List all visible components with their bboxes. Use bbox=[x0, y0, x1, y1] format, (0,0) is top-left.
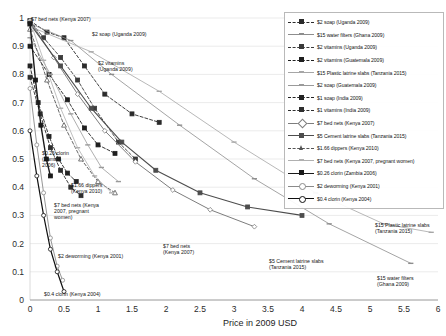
legend-marker bbox=[299, 159, 304, 161]
data-point-marker bbox=[59, 55, 63, 59]
legend-marker bbox=[299, 107, 304, 112]
data-point-marker bbox=[55, 270, 59, 274]
legend-item[interactable]: $2 vitamins (Guatemala 2009) bbox=[287, 54, 441, 67]
y-axis-tick-label: 0.1 bbox=[2, 267, 24, 277]
x-axis-tick-label: 1 bbox=[84, 304, 112, 314]
x-axis-tick-label: 5 bbox=[356, 304, 384, 314]
legend-item[interactable]: $0.4 clorin (Kenya 2004) bbox=[287, 192, 441, 205]
legend-key-icon bbox=[288, 67, 314, 78]
legend-marker bbox=[299, 44, 304, 49]
chart-annotation: $7 bed nets (Kenya 2007) bbox=[163, 243, 194, 255]
legend-item[interactable]: $2 deworming (Kenya 2001) bbox=[287, 180, 441, 193]
x-axis-tick-label: 3.5 bbox=[254, 304, 282, 314]
data-point-marker bbox=[48, 174, 52, 178]
data-point-marker bbox=[59, 64, 63, 68]
data-point-marker bbox=[65, 171, 69, 175]
data-point-marker bbox=[61, 278, 65, 282]
legend-item[interactable]: $1.66 dippers (Kenya 2010) bbox=[287, 142, 441, 155]
data-point-marker bbox=[252, 224, 257, 229]
legend-item-label: $7 bed nets (Kenya 2007, pregnant women) bbox=[317, 158, 414, 164]
y-axis-tick-label: 0.8 bbox=[2, 69, 24, 79]
legend-item[interactable]: $2 soap (Guatemala 2009) bbox=[287, 79, 441, 92]
legend-key-icon bbox=[288, 105, 314, 116]
data-point-marker bbox=[28, 129, 32, 133]
chart-annotation: $2 vitamins (Uganda 2009) bbox=[98, 60, 133, 72]
y-axis-tick-label: 0.3 bbox=[2, 210, 24, 220]
series-8 bbox=[28, 18, 257, 229]
chart-annotation: $0.26 clorin (Zambia 2006) bbox=[42, 150, 69, 169]
legend-item[interactable]: $1 soap (India 2009) bbox=[287, 92, 441, 105]
data-point-marker bbox=[157, 120, 161, 124]
data-point-marker bbox=[130, 112, 134, 116]
legend-key-icon bbox=[288, 92, 314, 103]
data-point-marker bbox=[300, 213, 304, 217]
data-point-marker bbox=[28, 22, 32, 26]
y-axis-tick-label: 0.5 bbox=[2, 154, 24, 164]
y-axis-tick-label: 0.2 bbox=[2, 239, 24, 249]
legend-marker bbox=[299, 145, 303, 150]
legend-item[interactable]: $15 Plastic latrine slabs (Tanzania 2015… bbox=[287, 66, 441, 79]
legend-marker bbox=[299, 183, 306, 190]
chart-annotation: $15 Plastic latrine slabs (Tanzania 2015… bbox=[375, 222, 430, 234]
legend-key-icon bbox=[288, 155, 314, 166]
legend-item[interactable]: $1 vitamins (India 2009) bbox=[287, 104, 441, 117]
legend-item[interactable]: $2 vitamins (Uganda 2009) bbox=[287, 41, 441, 54]
x-axis-title: Price in 2009 USD bbox=[180, 318, 340, 328]
data-point-marker bbox=[103, 92, 107, 96]
data-point-marker bbox=[82, 64, 86, 68]
data-point-marker bbox=[45, 77, 50, 82]
legend-marker bbox=[299, 19, 304, 24]
legend-marker bbox=[299, 196, 306, 203]
legend-item[interactable]: $0.26 clorin (Zambia 2006) bbox=[287, 167, 441, 180]
chart-annotation: $0.4 clorin (Kenya 2004) bbox=[44, 291, 101, 297]
x-axis-tick-label: 4.5 bbox=[322, 304, 350, 314]
y-axis-tick-label: 0.9 bbox=[2, 41, 24, 51]
legend-key-icon bbox=[288, 168, 314, 179]
chart-annotation: $5 Cement latrine slabs (Tanzania 2015) bbox=[269, 258, 324, 270]
chart-annotation: $2 deworming (Kenya 2001) bbox=[58, 253, 123, 259]
x-axis-tick-label: 4 bbox=[288, 304, 316, 314]
x-axis-tick-label: 2.5 bbox=[186, 304, 214, 314]
data-point-marker bbox=[82, 126, 86, 130]
data-point-marker bbox=[96, 143, 100, 147]
data-point-marker bbox=[89, 106, 93, 110]
data-point-marker bbox=[42, 213, 46, 217]
y-axis-tick-label: 0.7 bbox=[2, 98, 24, 108]
series-line bbox=[30, 89, 63, 281]
legend-item[interactable]: $15 water filters (Ghana 2009) bbox=[287, 29, 441, 42]
data-point-marker bbox=[35, 143, 39, 147]
legend-item-label: $2 deworming (Kenya 2001) bbox=[317, 183, 380, 189]
legend-marker bbox=[299, 133, 304, 138]
legend-key-icon bbox=[288, 181, 314, 192]
data-point-marker bbox=[113, 151, 117, 155]
legend-key-icon bbox=[288, 42, 314, 53]
legend-marker bbox=[299, 84, 304, 86]
data-point-marker bbox=[76, 78, 80, 82]
legend-marker bbox=[298, 119, 308, 129]
legend-item-label: $5 Cement latrine slabs (Tanzania 2015) bbox=[317, 133, 407, 139]
data-point-marker bbox=[198, 191, 202, 195]
data-point-marker bbox=[28, 75, 32, 79]
legend-key-icon bbox=[288, 143, 314, 154]
legend-key-icon bbox=[288, 80, 314, 91]
chart-annotation: $7 bed nets (Kenya 2007) bbox=[31, 16, 91, 22]
x-axis-tick-label: 5.5 bbox=[390, 304, 418, 314]
data-point-marker bbox=[35, 174, 39, 178]
legend-key-icon bbox=[288, 130, 314, 141]
y-axis-tick-label: 1 bbox=[2, 13, 24, 23]
legend-item-label: $1 vitamins (India 2009) bbox=[317, 107, 370, 113]
chart-annotation: $1.66 dippers (Kenya 2010) bbox=[71, 182, 102, 194]
legend-marker bbox=[299, 95, 304, 100]
chart-annotation: $7 bed nets (Kenya 2007, pregnant women) bbox=[54, 202, 99, 221]
x-axis-tick-label: 0 bbox=[16, 304, 44, 314]
legend-item-label: $2 soap (Guatemala 2009) bbox=[317, 82, 376, 88]
legend-item[interactable]: $2 soap (Uganda 2009) bbox=[287, 16, 441, 29]
data-point-marker bbox=[120, 140, 124, 144]
legend-marker bbox=[299, 170, 304, 175]
legend-item[interactable]: $5 Cement latrine slabs (Tanzania 2015) bbox=[287, 129, 441, 142]
legend-item[interactable]: $7 bed nets (Kenya 2007, pregnant women) bbox=[287, 155, 441, 168]
data-point-marker bbox=[42, 191, 46, 195]
data-point-marker bbox=[154, 168, 158, 172]
legend-item[interactable]: $7 bed nets (Kenya 2007) bbox=[287, 117, 441, 130]
legend-item-label: $1.66 dippers (Kenya 2010) bbox=[317, 145, 379, 151]
